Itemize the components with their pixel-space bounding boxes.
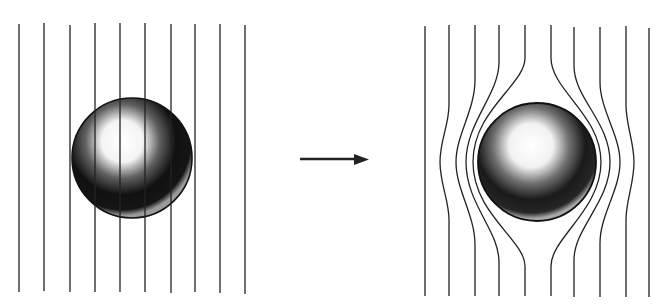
sphere-right (478, 103, 596, 221)
right-panel (425, 25, 649, 297)
diagram-canvas (0, 0, 665, 305)
transition-arrow (300, 154, 369, 165)
sphere-left (72, 98, 192, 218)
left-panel (19, 23, 245, 294)
